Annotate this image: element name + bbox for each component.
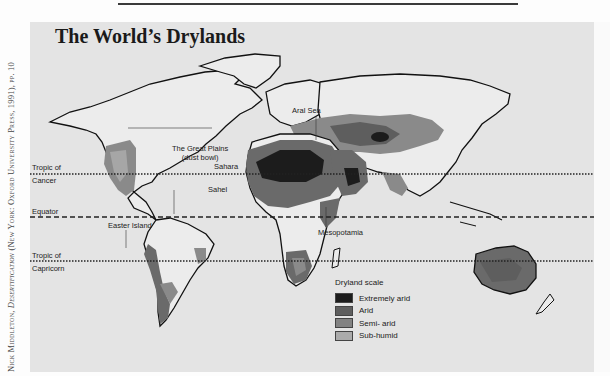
sahara-label: Sahara — [214, 162, 238, 171]
map-title: The World’s Drylands — [55, 25, 245, 48]
header-rule — [118, 3, 518, 5]
swatch-extremely-arid — [335, 293, 353, 303]
easter-island-label: Easter Island — [108, 221, 152, 230]
source-credit: Nick Middleton, Desertification (New Yor… — [6, 62, 16, 372]
page-margin — [594, 22, 610, 372]
sahel-label: Sahel — [208, 185, 227, 194]
legend-item-sub-humid: Sub-humid — [335, 330, 410, 343]
equator-label: Equator — [32, 207, 58, 216]
tropic-of-capricorn-label: Tropic ofCapricorn — [32, 251, 65, 273]
legend-item-arid: Arid — [335, 305, 410, 318]
world-map — [30, 22, 594, 372]
map-frame: The World’s Drylands Tropic ofCancer Equ… — [30, 22, 594, 372]
swatch-sub-humid — [335, 331, 353, 341]
legend-title: Dryland scale — [335, 278, 410, 287]
tropic-of-cancer-label: Tropic ofCancer — [32, 163, 61, 185]
legend-item-extremely-arid: Extremely arid — [335, 292, 410, 305]
mesopotamia-label: Mesopotamia — [318, 228, 363, 237]
north-america — [50, 70, 262, 220]
aral-sea-label: Aral Sea — [292, 106, 321, 115]
great-plains-label: The Great Plains(dust bowl) — [172, 144, 228, 162]
swatch-semi-arid — [335, 318, 353, 328]
swatch-arid — [335, 306, 353, 316]
dryland-legend: Dryland scale Extremely arid Arid Semi- … — [335, 278, 410, 342]
legend-item-semi-arid: Semi- arid — [335, 317, 410, 330]
